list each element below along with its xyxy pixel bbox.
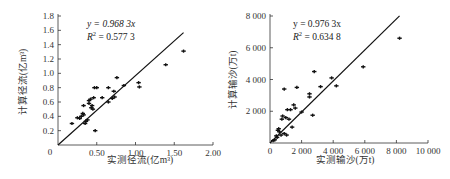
runoff-x-axis-label: 实测径流(亿m³) <box>107 154 174 166</box>
y-tick-label: 1.8 <box>43 11 55 21</box>
y-tick-label: 0.2 <box>43 126 54 136</box>
data-point <box>292 103 296 106</box>
y-tick-label: 0.8 <box>43 83 55 93</box>
runoff-fit-line <box>58 33 184 145</box>
data-point <box>100 96 104 99</box>
data-point <box>280 118 284 121</box>
runoff-y-axis-label: 计算径流(亿m³) <box>17 49 29 116</box>
data-point <box>361 65 365 68</box>
sediment-scatter-chart: 02 0004 0006 0008 00010 0002 0004 0006 0… <box>227 11 441 166</box>
runoff-r-squared: R2 = 0.577 3 <box>86 30 135 42</box>
sediment-x-axis-label: 实测输沙(万t) <box>316 154 375 166</box>
data-point <box>115 76 119 79</box>
runoff-axes <box>58 14 213 145</box>
y-tick-label: 0.4 <box>43 111 55 121</box>
data-point <box>295 86 299 89</box>
data-point <box>112 90 116 93</box>
y-tick-label: 1.2 <box>43 54 54 64</box>
x-tick-label: 2 000 <box>291 146 312 156</box>
x-tick-label: 0 <box>268 146 273 156</box>
data-point <box>181 50 185 53</box>
data-point <box>164 63 168 66</box>
y-tick-label: 0.6 <box>43 97 55 107</box>
x-tick-label: 2.00 <box>205 148 221 158</box>
y-tick-label: 4 000 <box>246 75 267 85</box>
y-tick-label: 8 000 <box>246 11 267 21</box>
y-tick-label: 1.0 <box>43 68 55 78</box>
data-point <box>93 129 97 132</box>
data-point <box>290 126 294 129</box>
sediment-equation: y = 0.976 3x <box>293 19 341 29</box>
y-tick-label: 1.4 <box>43 40 55 50</box>
chart-canvas: 0.501.001.502.000.20.40.60.81.01.21.41.6… <box>0 0 450 179</box>
origin-label: 0 <box>48 147 53 157</box>
data-point <box>329 76 333 79</box>
y-tick-label: 2 000 <box>246 106 267 116</box>
sediment-r-squared: R2 = 0.634 8 <box>292 30 341 42</box>
data-point <box>318 85 322 88</box>
sediment-y-axis-label: 计算输沙(万t) <box>227 51 239 110</box>
data-point <box>106 86 110 89</box>
data-point <box>90 104 94 107</box>
data-point <box>307 95 311 98</box>
x-tick-label: 10 000 <box>416 146 441 156</box>
data-point <box>95 86 99 89</box>
data-point <box>87 102 91 105</box>
y-tick-label: 6 000 <box>246 43 267 53</box>
runoff-data-points <box>70 50 186 133</box>
data-point <box>334 84 338 87</box>
data-point <box>70 122 74 125</box>
x-tick-label: 0.50 <box>89 148 105 158</box>
runoff-scatter-chart: 0.501.001.502.000.20.40.60.81.01.21.41.6… <box>17 11 221 166</box>
data-point <box>81 104 85 107</box>
data-point <box>288 108 292 111</box>
data-point <box>310 114 314 117</box>
data-point <box>397 37 401 40</box>
sediment-data-points <box>271 37 402 143</box>
runoff-equation: y = 0.968 3x <box>86 19 136 29</box>
data-point <box>136 81 140 84</box>
data-point <box>307 92 311 95</box>
data-point <box>137 85 141 88</box>
x-tick-label: 8 000 <box>386 146 407 156</box>
data-point <box>282 87 286 90</box>
data-point <box>293 106 297 109</box>
y-tick-label: 1.6 <box>43 25 55 35</box>
data-point <box>312 70 316 73</box>
sediment-tick-labels: 02 0004 0006 0008 00010 0002 0004 0006 0… <box>246 11 441 156</box>
